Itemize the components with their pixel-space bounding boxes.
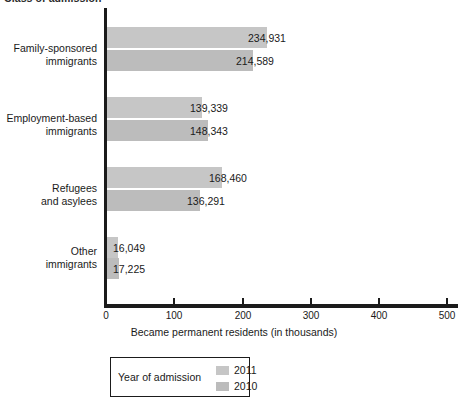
bar-2011-employment-based	[107, 97, 202, 118]
category-label-family-sponsored: Family-sponsored immigrants	[14, 42, 97, 67]
bar-value-2010-family-sponsored: 214,589	[236, 55, 274, 67]
bar-2011-family-sponsored	[107, 27, 267, 48]
category-label-other-immigrants: Other immigrants	[46, 245, 97, 270]
bar-2010-family-sponsored	[107, 50, 253, 71]
category-label-employment-based: Employment-based immigrants	[7, 112, 97, 137]
bar-value-2011-refugees-asylees: 168,460	[209, 172, 247, 184]
x-tick-100	[173, 298, 175, 304]
x-axis-label: Became permanent residents (in thousands…	[0, 326, 468, 338]
category-label-refugees-asylees: Refugees and asylees	[41, 182, 97, 207]
x-tick-label-100: 100	[166, 310, 183, 321]
bar-value-2010-employment-based: 148,343	[190, 125, 228, 137]
legend-label-2011: 2011	[234, 365, 257, 376]
legend-entry-2011: 2011	[216, 365, 257, 376]
x-tick-300	[310, 298, 312, 304]
legend-entry-2010: 2010	[216, 381, 257, 392]
bar-value-2011-family-sponsored: 234,931	[248, 32, 286, 44]
bar-value-2011-employment-based: 139,339	[190, 102, 228, 114]
x-tick-label-200: 200	[235, 310, 252, 321]
chart-plot-area: 0 100 200 300 400 500 Became permanent r…	[0, 0, 468, 312]
x-axis-line	[104, 304, 458, 308]
bar-value-2010-other-immigrants: 17,225	[113, 263, 145, 275]
x-tick-label-400: 400	[371, 310, 388, 321]
x-tick-0	[105, 298, 107, 304]
x-tick-label-0: 0	[103, 310, 109, 321]
legend-title: Year of admission	[118, 371, 201, 383]
chart-legend: Year of admission 2011 2010	[110, 357, 250, 397]
x-tick-500	[446, 298, 448, 304]
legend-swatch-2010-icon	[216, 382, 229, 391]
legend-swatch-2011-icon	[216, 366, 229, 375]
bar-value-2011-other-immigrants: 16,049	[113, 242, 145, 254]
legend-label-2010: 2010	[234, 381, 257, 392]
x-tick-label-300: 300	[303, 310, 320, 321]
bar-value-2010-refugees-asylees: 136,291	[187, 195, 225, 207]
x-tick-200	[242, 298, 244, 304]
bar-2011-refugees-asylees	[107, 167, 222, 188]
x-tick-label-500: 500	[439, 310, 456, 321]
x-tick-400	[378, 298, 380, 304]
